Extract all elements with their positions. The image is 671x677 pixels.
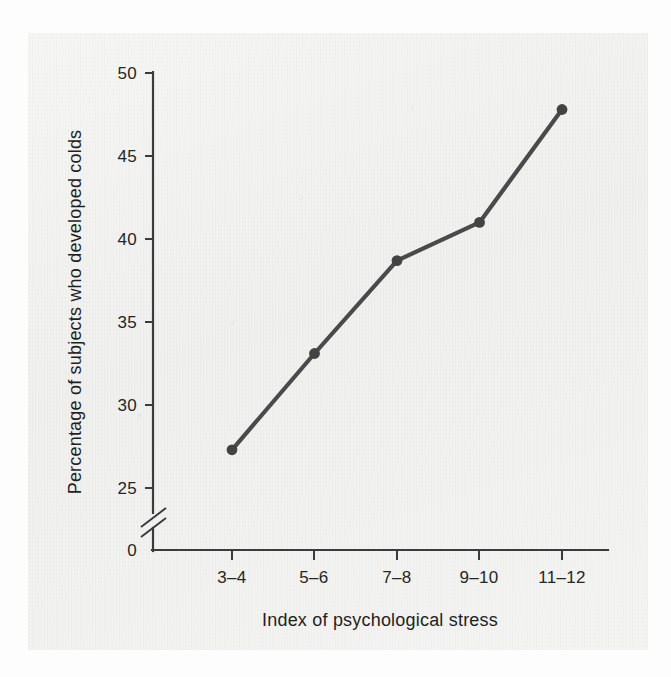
y-tick-label-50: 50 — [117, 64, 137, 83]
y-tick-label-35: 35 — [117, 313, 137, 332]
x-tick-label-3: 7–8 — [382, 568, 411, 587]
line-chart: 50 45 40 35 30 25 0 3–4 5–6 7–8 9–10 11–… — [0, 0, 671, 677]
data-point — [309, 348, 320, 359]
x-tick-group — [232, 550, 562, 560]
data-series-line — [232, 110, 562, 450]
y-tick-label-30: 30 — [117, 396, 137, 415]
data-point — [227, 444, 238, 455]
y-axis-title: Percentage of subjects who developed col… — [65, 130, 85, 495]
data-point-group — [227, 104, 568, 455]
data-point — [557, 104, 568, 115]
figure-page: 50 45 40 35 30 25 0 3–4 5–6 7–8 9–10 11–… — [0, 0, 671, 677]
data-point — [474, 217, 485, 228]
x-axis-title: Index of psychological stress — [262, 610, 498, 630]
x-tick-label-1: 3–4 — [217, 568, 246, 587]
x-tick-label-5: 11–12 — [538, 568, 586, 587]
x-tick-label-2: 5–6 — [299, 568, 328, 587]
y-tick-group — [145, 73, 153, 488]
y-tick-label-0: 0 — [127, 541, 137, 560]
y-tick-label-25: 25 — [117, 479, 137, 498]
x-tick-label-4: 9–10 — [459, 568, 498, 587]
data-point — [392, 255, 403, 266]
y-tick-label-45: 45 — [117, 147, 137, 166]
y-tick-label-40: 40 — [117, 230, 137, 249]
